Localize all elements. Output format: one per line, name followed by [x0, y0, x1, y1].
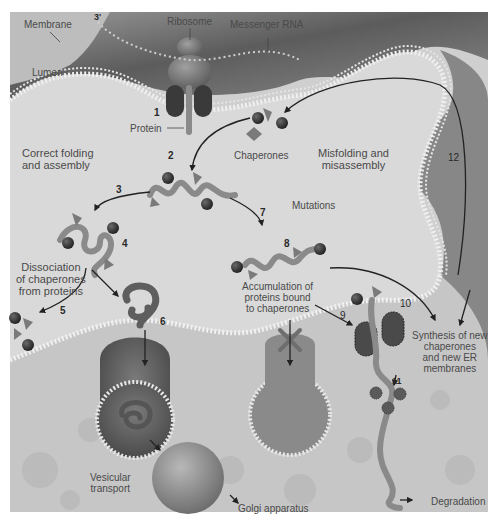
transport-vesicle [97, 382, 173, 458]
step-2: 2 [168, 150, 174, 161]
er-protein-folding-diagram: Membrane 3' Ribosome Messenger RNA Lumen… [0, 0, 497, 519]
step-6: 6 [160, 316, 166, 327]
golgi-apparatus [152, 442, 224, 514]
label-lumen: Lumen [32, 67, 63, 78]
step-10: 10 [400, 298, 411, 309]
step-3: 3 [116, 184, 122, 195]
label-protein: Protein [130, 123, 162, 134]
label-misfolding: Misfolding and misassembly [318, 147, 389, 171]
label-golgi-apparatus: Golgi apparatus [238, 503, 309, 514]
step-1: 1 [154, 107, 160, 118]
label-messenger-rna: Messenger RNA [230, 19, 303, 30]
nascent-protein [186, 85, 192, 135]
translocon-left [166, 85, 184, 117]
step-12: 12 [448, 152, 459, 163]
label-vesicular-transport: Vesicular transport [90, 472, 131, 494]
retrotranslocon-right [382, 312, 404, 346]
label-accumulation: Accumulation of proteins bound to chaper… [242, 281, 313, 314]
chaperone-sphere [62, 237, 74, 249]
step-7: 7 [260, 207, 266, 218]
label-correct-folding: Correct folding and assembly [22, 147, 94, 171]
label-mutations: Mutations [292, 200, 335, 211]
chaperone-sphere [162, 172, 174, 184]
chaperone-sphere [231, 261, 243, 273]
label-degradation: Degradation [431, 496, 485, 507]
label-membrane: Membrane [24, 19, 72, 30]
translocon-right [194, 85, 212, 117]
label-chaperones: Chaperones [234, 150, 288, 161]
chaperone-sphere [201, 198, 213, 210]
step-4: 4 [122, 238, 128, 249]
step-9: 9 [340, 310, 346, 321]
label-dissociation: Dissociation of chaperones from proteins [16, 261, 86, 297]
label-ribosome: Ribosome [167, 16, 212, 27]
chaperone-sphere [351, 293, 363, 305]
step-5: 5 [60, 305, 66, 316]
step-8: 8 [284, 238, 290, 249]
diagram-artwork [0, 0, 497, 519]
chaperone-sphere [314, 243, 326, 255]
label-synthesis: Synthesis of new chaperones and new ER m… [412, 330, 488, 374]
chaperone-sphere [107, 222, 119, 234]
step-3-prime: 3' [94, 12, 101, 22]
step-11: 11 [392, 376, 402, 386]
